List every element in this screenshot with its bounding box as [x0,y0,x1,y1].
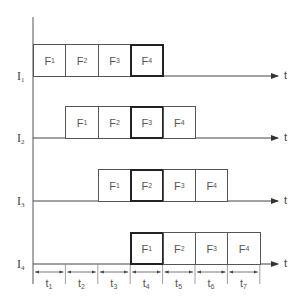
stage-box: F4 [195,169,228,202]
stage-box: F2 [98,106,131,139]
stage-box: F1 [130,232,163,265]
time-axis-label: t [284,195,287,206]
instruction-label: I3 [17,195,25,209]
time-slot-label: t6 [195,277,227,290]
time-slot-label: t7 [227,277,259,290]
time-slot-label: t3 [98,277,130,290]
stage-box: F2 [65,44,98,77]
stage-box: F4 [227,232,260,265]
stage-box: F3 [163,169,196,202]
stage-box: F1 [33,44,66,77]
time-slot-label: t5 [163,277,195,290]
time-axis-label: t [284,132,287,143]
stage-box: F3 [98,44,131,77]
pipeline-diagram: tI1F1F2F3F4tI2F1F2F3F4tI3F1F2F3F4tI4F1F2… [0,0,306,306]
time-axis-label: t [284,258,287,269]
time-slot-label: t1 [33,277,65,290]
time-slot-label: t4 [130,277,162,290]
time-axis-label: t [284,70,287,81]
instruction-label: I4 [17,258,25,272]
stage-box: F3 [195,232,228,265]
stage-box: F2 [130,169,163,202]
stage-box: F4 [130,44,163,77]
stage-box: F3 [130,106,163,139]
stage-box: F1 [65,106,98,139]
time-slot-label: t2 [65,277,97,290]
instruction-label: I2 [17,132,25,146]
instruction-label: I1 [17,70,25,84]
stage-box: F1 [98,169,131,202]
stage-box: F4 [163,106,196,139]
stage-box: F2 [163,232,196,265]
